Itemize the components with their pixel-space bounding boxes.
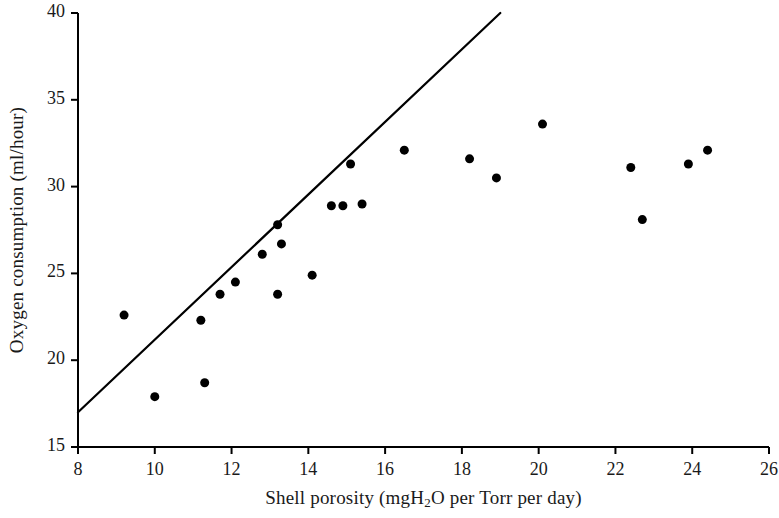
data-point-15: [400, 146, 409, 155]
data-point-8: [277, 239, 286, 248]
data-point-11: [327, 201, 336, 210]
data-point-10: [308, 271, 317, 280]
x-tick-label-12: 12: [212, 459, 252, 480]
x-tick-label-10: 10: [135, 459, 175, 480]
data-point-21: [684, 160, 693, 169]
x-tick-label-18: 18: [442, 459, 482, 480]
data-point-5: [231, 278, 240, 287]
data-point-22: [703, 146, 712, 155]
scatter-plot-figure: Oxygen consumption (ml/hour) Shell poros…: [0, 0, 779, 518]
data-point-18: [538, 120, 547, 129]
y-tick-label-40: 40: [25, 1, 65, 22]
y-tick-label-35: 35: [25, 88, 65, 109]
x-axis-title-subscript: 2: [424, 495, 431, 510]
axes-group: [71, 13, 769, 454]
data-point-13: [346, 160, 355, 169]
data-point-2: [196, 316, 205, 325]
plot-canvas: [0, 0, 779, 518]
y-tick-label-15: 15: [25, 435, 65, 456]
x-axis-title: Shell porosity (mgH2O per Torr per day): [78, 487, 769, 511]
data-point-6: [258, 250, 267, 259]
x-tick-label-26: 26: [749, 459, 779, 480]
x-tick-label-8: 8: [58, 459, 98, 480]
x-tick-label-22: 22: [595, 459, 635, 480]
y-tick-label-25: 25: [25, 261, 65, 282]
y-tick-label-30: 30: [25, 175, 65, 196]
data-point-3: [200, 378, 209, 387]
data-point-0: [120, 311, 129, 320]
data-point-12: [338, 201, 347, 210]
data-point-4: [216, 290, 225, 299]
x-tick-label-24: 24: [672, 459, 712, 480]
y-tick-label-20: 20: [25, 348, 65, 369]
x-tick-label-16: 16: [365, 459, 405, 480]
x-tick-label-14: 14: [288, 459, 328, 480]
data-point-14: [358, 199, 367, 208]
data-point-17: [492, 173, 501, 182]
x-tick-label-20: 20: [519, 459, 559, 480]
x-axis-title-pre: Shell porosity (mgH: [265, 487, 424, 508]
data-point-1: [150, 392, 159, 401]
data-point-19: [626, 163, 635, 172]
data-points-group: [120, 120, 713, 402]
data-point-9: [273, 290, 282, 299]
trend-line: [78, 13, 500, 412]
x-axis-title-post: O per Torr per day): [431, 487, 582, 508]
data-point-7: [273, 220, 282, 229]
data-point-16: [465, 154, 474, 163]
data-point-20: [638, 215, 647, 224]
